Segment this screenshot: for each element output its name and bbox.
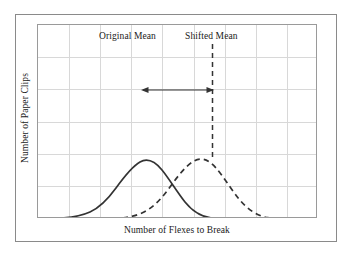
y-axis-title: Number of Paper Clips — [20, 23, 30, 213]
x-axis-title: Number of Flexes to Break — [37, 225, 317, 235]
plot-area — [37, 24, 317, 218]
chart-figure: Original Mean Shifted Mean Number of Fle… — [0, 0, 352, 257]
shifted-mean-label: Shifted Mean — [185, 31, 238, 41]
original-distribution-curve — [56, 160, 300, 218]
shifted-distribution-curve — [56, 159, 300, 218]
original-mean-label: Original Mean — [99, 31, 156, 41]
distribution-curves — [38, 25, 317, 218]
